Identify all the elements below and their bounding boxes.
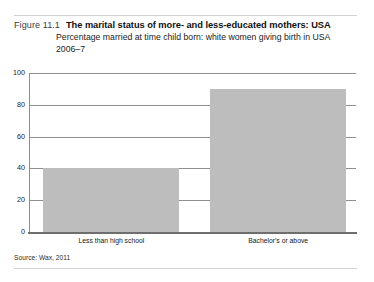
y-axis-tick-label: 60 [17, 133, 25, 140]
gridline [29, 232, 356, 233]
y-axis-tick-label: 80 [17, 101, 25, 108]
figure-number: Figure 11.1 [14, 20, 60, 30]
y-axis-line [29, 73, 30, 232]
x-axis-category-label: Less than high school [43, 237, 179, 244]
bar [43, 168, 179, 232]
caption-first-line: Figure 11.1 The marital status of more- … [14, 20, 364, 30]
y-axis-tick-label: 0 [21, 228, 25, 235]
figure-container: Figure 11.1 The marital status of more- … [0, 0, 374, 282]
bar [210, 89, 346, 232]
top-divider-rule [14, 15, 357, 16]
y-axis-tick-label: 20 [17, 197, 25, 204]
gridline [29, 73, 356, 74]
bottom-divider-rule [14, 268, 357, 269]
x-axis-category-label: Bachelor's or above [210, 237, 346, 244]
source-note: Source: Wax, 2011 [14, 254, 70, 261]
y-axis-tick-label: 40 [17, 165, 25, 172]
plot-area: 020406080100 Less than high schoolBachel… [29, 73, 356, 232]
y-axis-tick-label: 100 [13, 69, 25, 76]
figure-title: The marital status of more- and less-edu… [66, 20, 331, 30]
figure-caption: Figure 11.1 The marital status of more- … [14, 20, 364, 55]
figure-subtitle: Percentage married at time child born: w… [56, 32, 356, 55]
